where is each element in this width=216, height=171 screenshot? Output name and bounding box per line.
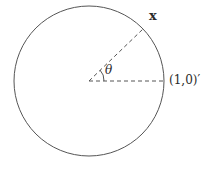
angle-arc: [100, 70, 104, 81]
angle-label: θ: [105, 64, 112, 76]
reference-point-label: (1,0)′: [169, 74, 200, 86]
vector-dashed-line: [89, 29, 143, 81]
vector-label: x: [149, 9, 157, 22]
